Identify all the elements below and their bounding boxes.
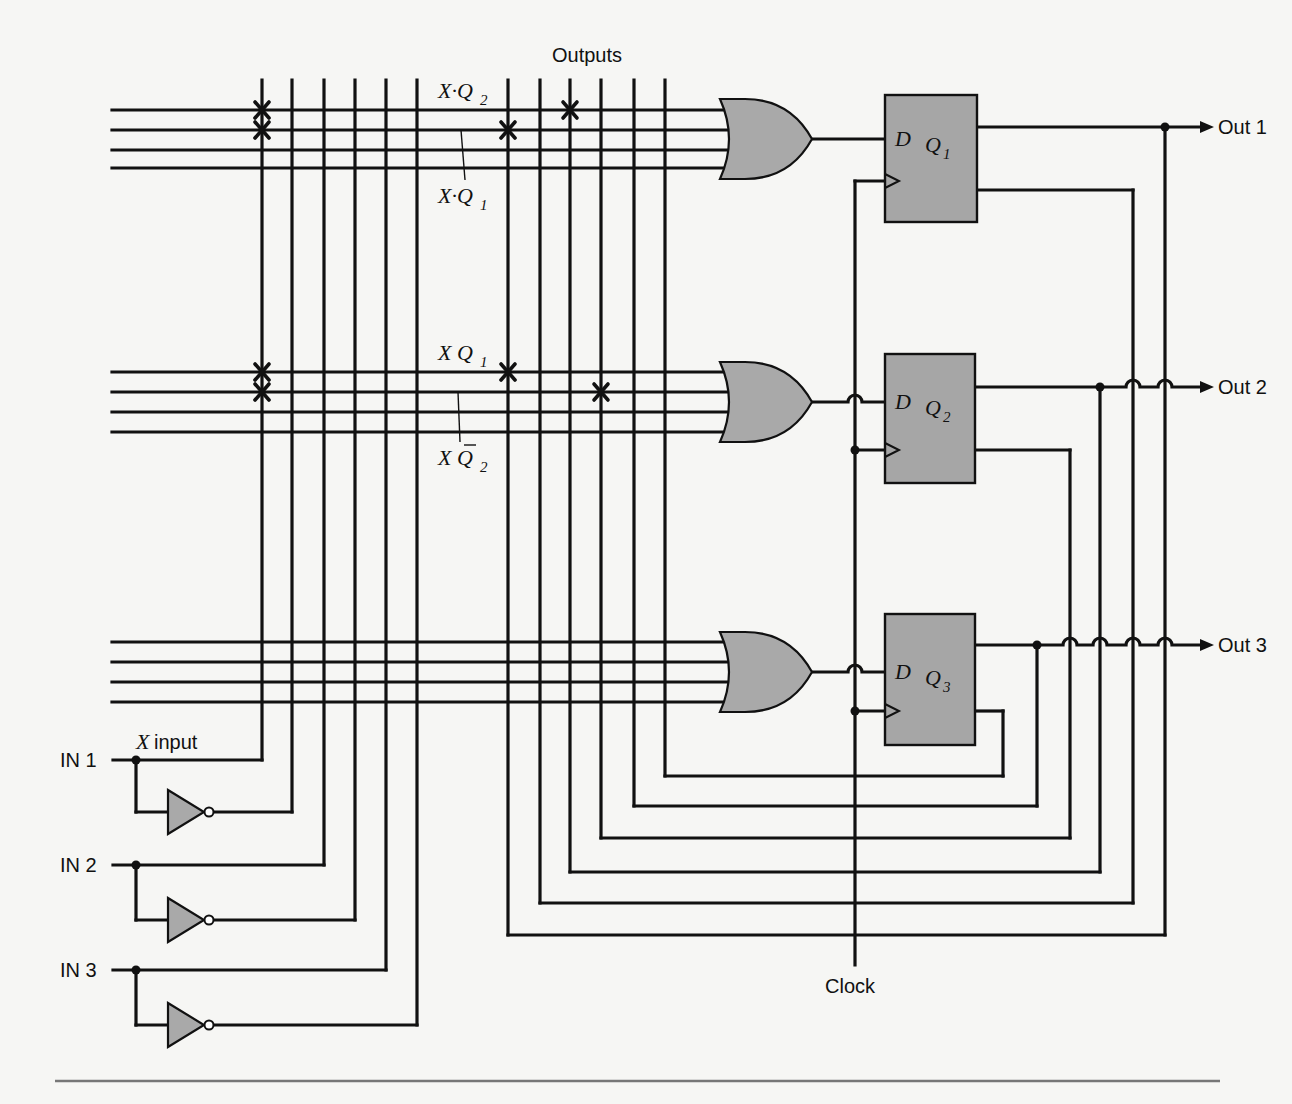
- out3-label: Out 3: [1218, 634, 1267, 656]
- or-gate-3: [720, 632, 812, 712]
- out2-arrow-icon: [1200, 381, 1214, 393]
- x-input-label: input: [154, 731, 198, 753]
- ff1-d-label: D: [894, 126, 911, 151]
- clock-junction-dot: [851, 707, 860, 716]
- q1-feedback-junction-dot: [1161, 123, 1170, 132]
- d-flip-flop-1: [885, 95, 977, 222]
- clock-junction-dot: [851, 446, 860, 455]
- input-2-junction-dot: [132, 861, 141, 870]
- clock-label: Clock: [825, 975, 876, 997]
- input-label-2: IN 2: [60, 854, 97, 876]
- term-label-2-2: X Q: [437, 445, 473, 470]
- ff3-d-label: D: [894, 659, 911, 684]
- gate3-to-d: [812, 665, 885, 672]
- ff2-q-label: Q: [925, 395, 941, 420]
- or-gate-1: [720, 99, 812, 179]
- term-sub-1-2: 1: [480, 197, 488, 213]
- leader-line: [461, 130, 465, 180]
- inverter-2-bubble: [205, 916, 214, 925]
- term-label-1-1: X·Q: [437, 78, 473, 103]
- term-sub-2-2: 2: [480, 459, 488, 475]
- x-input-var: X: [135, 729, 151, 754]
- outputs-title: Outputs: [552, 44, 622, 66]
- out1-arrow-icon: [1200, 121, 1214, 133]
- out1-label: Out 1: [1218, 116, 1267, 138]
- inverter-1-bubble: [205, 808, 214, 817]
- inverter-2: [168, 898, 204, 942]
- q2-feedback-junction-dot: [1096, 383, 1105, 392]
- ff2-q-sub: 2: [943, 409, 951, 425]
- inverter-3: [168, 1003, 204, 1047]
- ff1-q-label: Q: [925, 132, 941, 157]
- pla-sequential-circuit-diagram: Outputs DQ1X·Q2X·Q1DQ2X Q1X Q2DQ3Out 1Ou…: [0, 0, 1292, 1104]
- gate2-to-d: [812, 395, 885, 402]
- or-gate-2: [720, 362, 812, 442]
- term-sub-2-1: 1: [480, 354, 488, 370]
- input-label-1: IN 1: [60, 749, 97, 771]
- ff3-q-label: Q: [925, 665, 941, 690]
- term-sub-1-1: 2: [480, 92, 488, 108]
- input-1-junction-dot: [132, 756, 141, 765]
- leader-line: [458, 392, 460, 442]
- term-label-2-1: X Q: [437, 340, 473, 365]
- ff1-q-sub: 1: [943, 146, 951, 162]
- ff2-d-label: D: [894, 389, 911, 414]
- inverter-1: [168, 790, 204, 834]
- out2-label: Out 2: [1218, 376, 1267, 398]
- term-label-1-2: X·Q: [437, 183, 473, 208]
- input-label-3: IN 3: [60, 959, 97, 981]
- ff3-q-sub: 3: [942, 679, 951, 695]
- q3-feedback-junction-dot: [1033, 641, 1042, 650]
- input-3-junction-dot: [132, 966, 141, 975]
- wires: [112, 80, 1200, 1025]
- inverter-3-bubble: [205, 1021, 214, 1030]
- out3-arrow-icon: [1200, 639, 1214, 651]
